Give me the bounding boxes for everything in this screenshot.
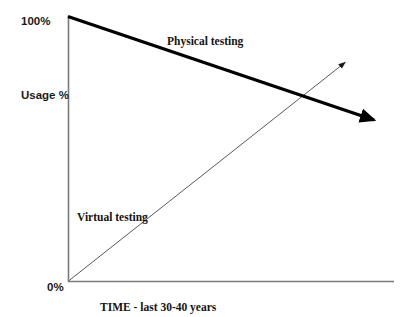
x-axis-caption: TIME - last 30-40 years	[100, 301, 216, 313]
chart-canvas: 100% 0% Usage % Physical testing Virtual…	[0, 0, 414, 317]
virtual-testing-series-label: Virtual testing	[77, 211, 148, 223]
physical-testing-series-label: Physical testing	[167, 35, 243, 47]
chart-plot-area	[0, 0, 414, 317]
y-axis-title: Usage %	[21, 89, 69, 101]
y-axis-min-label: 0%	[47, 281, 64, 293]
physical-testing-line	[68, 17, 374, 121]
y-axis-max-label: 100%	[21, 15, 50, 27]
